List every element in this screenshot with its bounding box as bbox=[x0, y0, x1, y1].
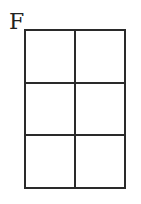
grid-diagram bbox=[24, 29, 126, 189]
grid-cell bbox=[25, 135, 75, 188]
figure-label: F bbox=[9, 11, 24, 33]
grid-cell bbox=[75, 30, 125, 83]
grid-cell bbox=[75, 135, 125, 188]
grid-cell bbox=[25, 83, 75, 136]
grid-cell bbox=[75, 83, 125, 136]
grid-cell bbox=[25, 30, 75, 83]
